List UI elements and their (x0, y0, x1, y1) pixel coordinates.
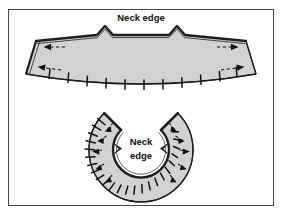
bottom-neck-edge-label-line2: edge (130, 150, 152, 161)
top-neck-edge-label: Neck edge (117, 12, 165, 23)
bottom-neck-edge-label-line1: Neck (130, 136, 153, 147)
curved-collar-notch-right (161, 144, 168, 154)
pattern-diagram-svg: Neck edge (9, 10, 273, 205)
curved-collar-notch-left (115, 144, 122, 154)
figure-root: Neck edge (0, 0, 283, 216)
figure-frame: Neck edge (8, 9, 274, 206)
curved-collar-piece: Neck edge (85, 113, 193, 202)
flat-collar-piece: Neck edge (26, 12, 256, 90)
